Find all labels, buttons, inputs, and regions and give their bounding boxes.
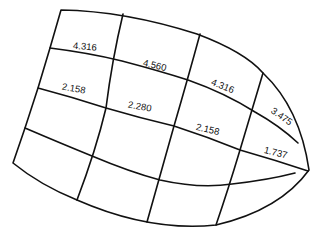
cell-label-r1c3: 4.316 — [210, 76, 236, 95]
cell-label-r1c1: 4.316 — [73, 40, 98, 53]
cell-label-r1c2: 4.560 — [142, 57, 168, 73]
cell-label-r2c1: 2.158 — [61, 81, 86, 96]
cell-label-r1c4: 3.475 — [269, 105, 295, 128]
vertical-line-4 — [216, 73, 263, 225]
curved-grid-diagram: 4.316 4.560 4.316 3.475 2.158 2.280 2.15… — [0, 0, 322, 233]
cell-label-r2c2: 2.280 — [127, 99, 152, 114]
